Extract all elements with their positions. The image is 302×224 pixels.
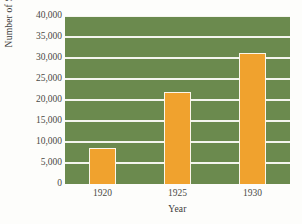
x-axis-tick-label: 1930 [223,188,283,198]
plot-area [65,16,290,184]
bar [89,148,116,184]
x-axis-tick-label: 1920 [73,188,133,198]
y-axis-tick-label: 0 [16,178,62,188]
y-axis-tick-label: 20,000 [16,94,62,104]
y-axis-tick-label: 35,000 [16,31,62,41]
gridline [65,16,290,17]
y-axis-tick-label: 5,000 [16,157,62,167]
bar [239,53,266,184]
bar [164,92,191,184]
y-axis-tick-label: 30,000 [16,52,62,62]
y-axis-tick-label: 10,000 [16,136,62,146]
gridline [65,36,290,38]
x-axis-tick-labels: 192019251930 [65,188,290,204]
bar-chart-figure: Number of Stores 05,00010,00015,00020,00… [0,0,302,224]
x-axis-title: Year [65,204,290,214]
y-axis-tick-labels: 05,00010,00015,00020,00025,00030,00035,0… [12,0,62,224]
x-axis-tick-label: 1925 [148,188,208,198]
y-axis-tick-label: 15,000 [16,115,62,125]
y-axis-tick-label: 25,000 [16,73,62,83]
y-axis-tick-label: 40,000 [16,10,62,20]
